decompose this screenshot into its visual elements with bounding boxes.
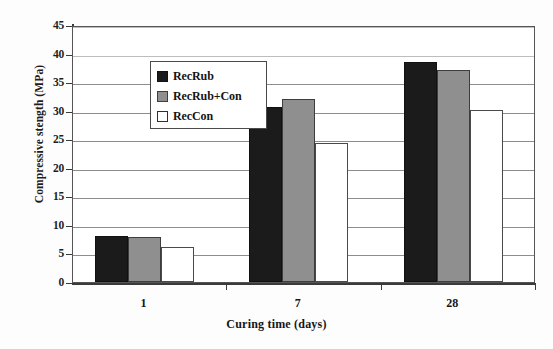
y-axis-tick-label: 0 xyxy=(34,276,64,288)
black-square-swatch-icon xyxy=(157,71,168,82)
bar-recrub-plus-con-day-7 xyxy=(282,99,315,282)
legend-item-reccon[interactable]: RecCon xyxy=(157,106,261,126)
y-axis-tick-label: 15 xyxy=(34,190,64,202)
legend: RecRub RecRub+Con RecCon xyxy=(150,61,267,129)
bar-recrub-day-1 xyxy=(95,236,128,282)
x-axis-tick xyxy=(381,283,382,290)
gridline xyxy=(73,27,534,28)
y-axis-tick-label: 25 xyxy=(34,133,64,145)
plot-area: RecRub RecRub+Con RecCon xyxy=(72,26,535,283)
bar-recrub-plus-con-day-28 xyxy=(437,70,470,282)
compressive-strength-bar-chart: Compressive stength (MPa) RecRub RecRub+… xyxy=(0,0,553,349)
y-axis-tick-label: 35 xyxy=(34,76,64,88)
bar-recrub-day-28 xyxy=(404,62,437,282)
x-axis-tick xyxy=(535,283,536,290)
y-axis-tick-label: 45 xyxy=(34,19,64,31)
legend-item-recrub[interactable]: RecRub xyxy=(157,66,261,86)
y-axis-tick-label: 30 xyxy=(34,105,64,117)
bar-recrub-plus-con-day-1 xyxy=(128,237,161,282)
x-axis-tick-label: 1 xyxy=(114,296,174,311)
gray-square-swatch-icon xyxy=(157,91,168,102)
x-axis-line xyxy=(72,283,536,285)
y-axis-tick-label: 40 xyxy=(34,48,64,60)
legend-label: RecCon xyxy=(173,109,213,124)
x-axis-title: Curing time (days) xyxy=(0,317,553,332)
legend-label: RecRub xyxy=(173,69,214,84)
x-axis-tick-label: 28 xyxy=(422,296,482,311)
y-axis-tick-label: 10 xyxy=(34,219,64,231)
white-square-swatch-icon xyxy=(157,111,168,122)
bar-reccon-day-7 xyxy=(315,143,348,282)
x-axis-tick xyxy=(226,283,227,290)
y-axis-tick-label: 20 xyxy=(34,162,64,174)
bar-reccon-day-1 xyxy=(161,247,194,282)
x-axis-tick-label: 7 xyxy=(268,296,328,311)
gridline xyxy=(73,56,534,57)
y-axis-tick-label: 5 xyxy=(34,247,64,259)
legend-label: RecRub+Con xyxy=(173,89,242,104)
bar-reccon-day-28 xyxy=(470,110,503,282)
legend-item-recrub-con[interactable]: RecRub+Con xyxy=(157,86,261,106)
bar-recrub-day-7 xyxy=(249,107,282,282)
